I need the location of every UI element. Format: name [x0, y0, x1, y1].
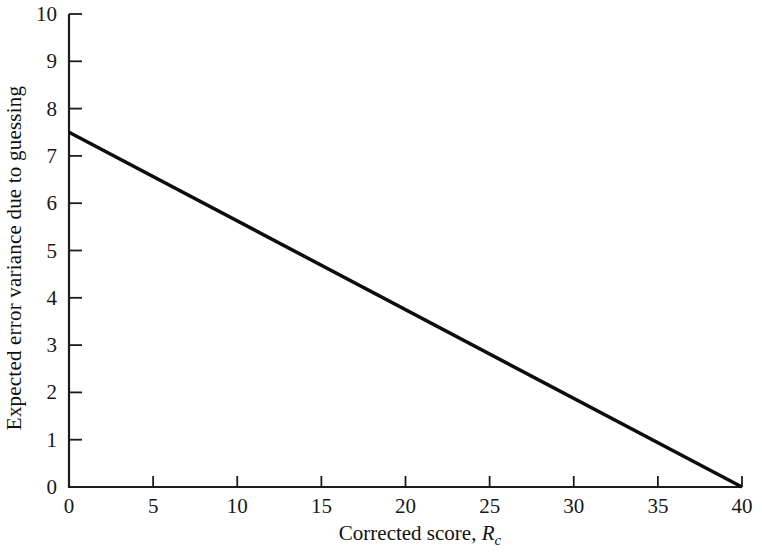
y-tick-label: 5	[47, 239, 58, 263]
y-tick-label: 0	[47, 475, 58, 499]
y-tick-label: 2	[47, 380, 58, 404]
y-tick-label: 10	[36, 2, 57, 26]
x-axis-title-variable: R	[482, 521, 495, 545]
x-axis-title-text: Corrected score,	[339, 521, 482, 545]
data-line	[69, 132, 742, 487]
x-tick-label: 35	[647, 494, 668, 518]
x-tick-label: 30	[563, 494, 584, 518]
y-axis-title: Expected error variance due to guessing	[2, 86, 27, 430]
y-tick-label: 1	[47, 428, 58, 452]
x-tick-label: 0	[64, 494, 75, 518]
y-tick-label: 8	[47, 97, 58, 121]
axis-lines	[69, 14, 742, 487]
chart-canvas: 0123456789100510152025303540	[0, 0, 762, 557]
x-tick-label: 15	[311, 494, 332, 518]
x-tick-label: 5	[148, 494, 159, 518]
x-axis-title-subscript: c	[495, 532, 502, 548]
y-tick-label: 6	[47, 191, 58, 215]
x-tick-label: 25	[479, 494, 500, 518]
y-tick-label: 3	[47, 333, 58, 357]
chart-figure: 0123456789100510152025303540 Expected er…	[0, 0, 762, 557]
x-tick-label: 10	[227, 494, 248, 518]
x-tick-label: 40	[732, 494, 753, 518]
y-tick-label: 7	[47, 144, 58, 168]
x-tick-label: 20	[395, 494, 416, 518]
y-tick-label: 4	[47, 286, 58, 310]
y-tick-label: 9	[47, 49, 58, 73]
x-axis-title: Corrected score, Rc	[339, 521, 501, 546]
